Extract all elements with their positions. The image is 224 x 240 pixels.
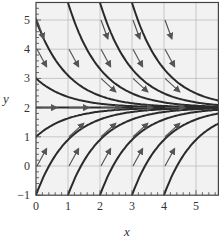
slope-field-chart: 012345−1012345 x y [0,0,224,240]
x-tick-label: 2 [97,199,103,213]
y-tick-label: 3 [24,71,30,85]
x-tick-label: 0 [33,199,39,213]
x-tick-label: 3 [129,199,135,213]
y-tick-label: −1 [17,188,30,202]
y-tick-label: 4 [24,42,30,56]
y-tick-label: 5 [24,13,30,27]
y-axis-label: y [1,91,9,106]
x-tick-label: 5 [193,199,199,213]
y-tick-label: 2 [24,101,30,115]
x-tick-label: 4 [161,199,167,213]
y-tick-label: 0 [24,159,30,173]
y-tick-label: 1 [24,130,30,144]
x-axis-label: x [123,224,130,239]
x-tick-label: 1 [65,199,71,213]
